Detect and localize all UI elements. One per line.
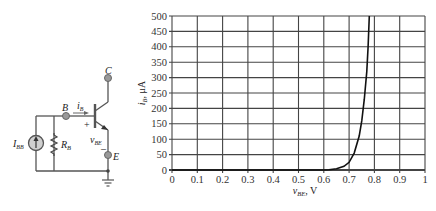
y-axis-ticks: 050100150200250300350400450500 (151, 11, 167, 176)
y-tick-label: 300 (151, 72, 167, 83)
label-emitter: E (112, 151, 119, 162)
label-ibb: IBB (12, 138, 24, 150)
x-tick-label: 0.4 (267, 174, 281, 185)
y-tick-label: 450 (151, 26, 167, 37)
label-rb: RB (60, 139, 71, 151)
y-tick-label: 400 (151, 41, 167, 52)
y-tick-label: 250 (151, 88, 167, 99)
junction-dot (106, 169, 110, 173)
x-axis-label: vBE, V (293, 185, 318, 197)
x-tick-label: 0.5 (292, 174, 305, 185)
y-axis-label: iB, μA (136, 80, 148, 105)
figure: C B E iB + – vBE IBB RB 0501001502002503… (0, 0, 436, 211)
chart-grid (169, 16, 425, 173)
bjt-circuit (36, 78, 108, 180)
collector-lead (95, 102, 108, 111)
x-tick-label: 0.1 (191, 174, 204, 185)
y-tick-label: 500 (151, 11, 167, 22)
y-tick-label: 350 (151, 57, 167, 68)
current-source-icon (29, 136, 44, 151)
x-tick-label: 0.2 (216, 174, 229, 185)
x-tick-label: 0.9 (393, 174, 406, 185)
x-tick-label: 0.7 (343, 174, 356, 185)
y-tick-label: 150 (151, 118, 167, 129)
label-base: B (62, 102, 68, 113)
y-tick-label: 200 (151, 103, 167, 114)
x-tick-label: 0 (169, 174, 174, 185)
base-terminal (63, 113, 70, 120)
x-tick-label: 0.8 (368, 174, 381, 185)
y-tick-label: 100 (151, 134, 167, 145)
arrow-head-icon (84, 111, 89, 115)
label-collector: C (105, 65, 112, 76)
x-tick-label: 1 (422, 174, 427, 185)
ground-icon (102, 180, 114, 186)
label-ib: iB (77, 100, 84, 112)
y-tick-label: 50 (157, 149, 168, 160)
label-plus: + (84, 119, 90, 130)
x-tick-label: 0.3 (241, 174, 254, 185)
x-axis-ticks: 00.10.20.30.40.50.60.70.80.91 (169, 174, 427, 185)
label-vbe: vBE (90, 134, 102, 146)
x-tick-label: 0.6 (317, 174, 330, 185)
y-tick-label: 0 (162, 165, 167, 176)
